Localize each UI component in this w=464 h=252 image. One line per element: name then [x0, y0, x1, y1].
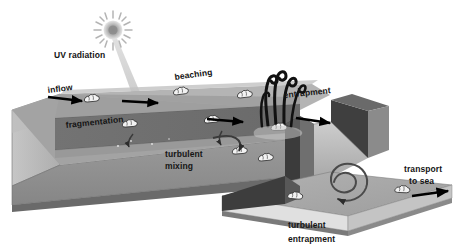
label-turbulent-entrapment-line1: turbulent	[288, 220, 326, 230]
label-transport-line1: transport	[404, 164, 442, 174]
mouth-right-wall-side	[368, 106, 389, 158]
label-turbulent-mixing-line1: turbulent	[165, 149, 203, 159]
label-transport-line2: to sea	[409, 176, 434, 186]
river-plastic-transport-diagram: UV radiation inflow fragmentation beachi…	[0, 0, 464, 252]
label-uv-radiation: UV radiation	[54, 50, 105, 60]
diagram-canvas: UV radiation inflow fragmentation beachi…	[0, 0, 464, 252]
label-turbulent-mixing-line2: mixing	[165, 161, 193, 171]
label-turbulent-entrapment-line2: entrapment	[288, 234, 335, 244]
